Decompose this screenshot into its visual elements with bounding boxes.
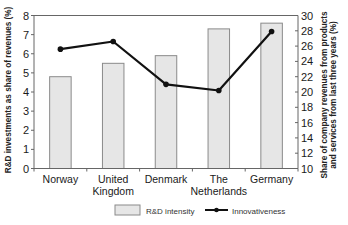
bar (261, 23, 283, 168)
category-label: Norway (43, 173, 79, 185)
left-tick-label: 4 (23, 86, 29, 98)
right-axis-title-line-2: and services from last three years (%) (329, 21, 338, 169)
right-tick-label: 12 (301, 147, 313, 159)
left-tick-label: 2 (23, 124, 29, 136)
legend-bar-label: R&D intensity (146, 207, 194, 216)
left-tick-label: 7 (23, 29, 29, 41)
combo-chart: 012345678 1012141618202224262830 NorwayU… (0, 0, 348, 225)
right-tick-label: 10 (301, 163, 313, 175)
category-label: Netherlands (190, 185, 247, 197)
left-tick-label: 8 (23, 10, 29, 22)
left-tick-label: 3 (23, 105, 29, 117)
right-axis-title-line-1: Share of company revenues from products (320, 11, 329, 178)
bar (208, 29, 230, 169)
data-point-marker (58, 46, 64, 52)
right-tick-label: 16 (301, 117, 313, 129)
left-axis-ticks: 012345678 (23, 10, 34, 175)
category-label: The (210, 173, 228, 185)
category-label: Germany (250, 173, 294, 185)
right-tick-label: 18 (301, 101, 313, 113)
right-tick-label: 22 (301, 71, 313, 83)
right-tick-label: 28 (301, 25, 313, 37)
category-label: United (98, 173, 129, 185)
category-label: Denmark (145, 173, 188, 185)
data-point-marker (216, 88, 222, 94)
bar (102, 63, 124, 168)
left-tick-label: 1 (23, 143, 29, 155)
legend-line-label: Innovativeness (232, 207, 285, 216)
legend-bar-swatch (115, 205, 140, 215)
data-point-marker (163, 82, 169, 88)
bar (155, 56, 177, 169)
data-point-marker (110, 39, 116, 45)
left-tick-label: 0 (23, 163, 29, 175)
right-tick-label: 24 (301, 55, 313, 67)
right-tick-label: 14 (301, 132, 313, 144)
left-axis-title: R&D investments as share of revenues (%) (4, 6, 13, 173)
right-tick-label: 20 (301, 86, 313, 98)
data-point-marker (269, 29, 275, 35)
category-label: Kingdom (92, 185, 134, 197)
left-tick-label: 5 (23, 67, 29, 79)
legend-line-marker-icon (214, 208, 219, 213)
chart-container: 012345678 1012141618202224262830 NorwayU… (0, 0, 348, 225)
legend: R&D intensity Innovativeness (115, 205, 285, 216)
right-tick-label: 26 (301, 40, 313, 52)
bar (50, 77, 72, 169)
left-tick-label: 6 (23, 48, 29, 60)
right-tick-label: 30 (301, 10, 313, 22)
category-labels: NorwayUnitedKingdomDenmarkTheNetherlands… (43, 173, 294, 197)
